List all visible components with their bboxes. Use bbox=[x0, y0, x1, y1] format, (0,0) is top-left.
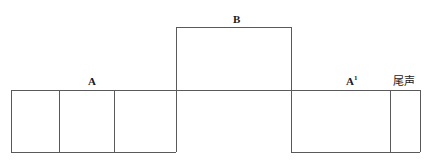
section-b-label: B bbox=[233, 14, 240, 25]
section-a-bottom-edge bbox=[11, 152, 176, 153]
section-a1-label-superscript: 1 bbox=[354, 74, 358, 82]
section-b-top-edge bbox=[176, 27, 291, 28]
section-a-label: A bbox=[88, 76, 96, 87]
section-a1-label-base: A bbox=[346, 75, 354, 87]
section-a-divider-2 bbox=[114, 90, 115, 152]
form-diagram: A B A1 尾声 bbox=[0, 0, 432, 163]
section-b-right-edge bbox=[291, 27, 292, 152]
section-coda-label: 尾声 bbox=[393, 76, 415, 87]
section-b-left-edge bbox=[176, 27, 177, 152]
section-a1-label: A1 bbox=[346, 76, 357, 87]
section-a1-bottom-edge bbox=[291, 152, 390, 153]
baseline-horizontal-rule bbox=[11, 90, 420, 91]
section-coda-bottom-edge bbox=[390, 152, 420, 153]
section-a-divider-1 bbox=[59, 90, 60, 152]
section-a1-right-edge bbox=[390, 90, 391, 152]
section-coda-right-edge bbox=[420, 90, 421, 152]
section-a-left-edge bbox=[11, 90, 12, 152]
